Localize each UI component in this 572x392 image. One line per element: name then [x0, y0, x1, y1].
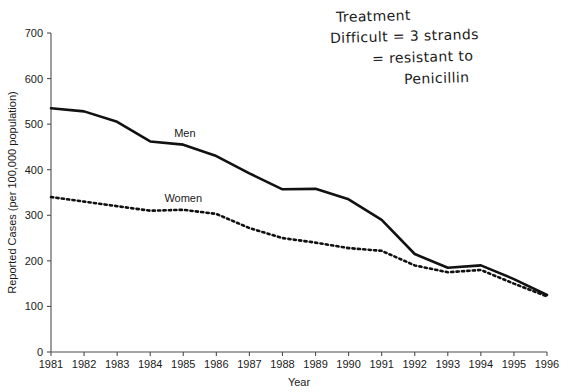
line-chart: 0100200300400500600700 19811982198319841…: [0, 0, 572, 392]
chart-figure: 0100200300400500600700 19811982198319841…: [0, 0, 572, 392]
x-tick-label: 1981: [39, 358, 63, 370]
x-tick-label: 1994: [469, 358, 493, 370]
x-tick-label: 1990: [336, 358, 360, 370]
y-axis-ticks: 0100200300400500600700: [25, 27, 51, 358]
x-tick-label: 1987: [237, 358, 261, 370]
handwritten-note-line-1: Treatment: [336, 5, 411, 27]
x-tick-label: 1991: [369, 358, 393, 370]
y-tick-label: 0: [37, 346, 43, 358]
y-tick-label: 300: [25, 209, 43, 221]
series-label-women: Women: [164, 192, 202, 204]
x-tick-label: 1989: [303, 358, 327, 370]
x-tick-label: 1983: [105, 358, 129, 370]
x-tick-label: 1988: [270, 358, 294, 370]
handwritten-note-line-3: = resistant to: [372, 46, 474, 69]
series-annotations: MenWomen: [164, 127, 202, 204]
x-tick-label: 1986: [204, 358, 228, 370]
handwritten-note-line-2: Difficult = 3 strands: [330, 24, 479, 48]
x-axis-ticks: 1981198219831984198519861987198819891990…: [39, 352, 559, 370]
series-line-men: [51, 108, 547, 295]
y-tick-label: 200: [25, 255, 43, 267]
x-tick-label: 1996: [535, 358, 559, 370]
series-line-women: [51, 197, 547, 296]
x-tick-label: 1995: [502, 358, 526, 370]
y-tick-label: 400: [25, 164, 43, 176]
x-tick-label: 1993: [436, 358, 460, 370]
x-tick-label: 1992: [402, 358, 426, 370]
y-tick-label: 100: [25, 300, 43, 312]
y-axis-title: Reported Cases (per 100,000 population): [6, 91, 18, 293]
series-label-men: Men: [174, 127, 195, 139]
handwritten-note-line-4: Penicillin: [404, 67, 470, 89]
y-tick-label: 700: [25, 27, 43, 39]
y-tick-label: 600: [25, 73, 43, 85]
y-tick-label: 500: [25, 118, 43, 130]
x-axis-title: Year: [288, 376, 311, 388]
x-tick-label: 1982: [72, 358, 96, 370]
x-tick-label: 1984: [138, 358, 162, 370]
x-tick-label: 1985: [171, 358, 195, 370]
